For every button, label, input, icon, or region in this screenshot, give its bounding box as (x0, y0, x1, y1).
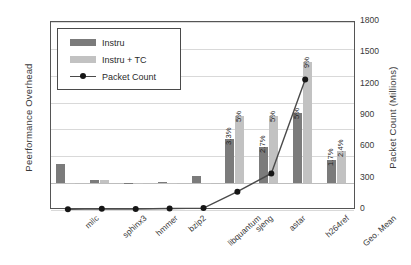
legend-item-packet-count[interactable]: Packet Count (64, 68, 174, 85)
bar-instru-tc (66, 183, 75, 184)
bar-value-label: 5% (234, 111, 243, 122)
y-axis-right-tick: 0 (360, 203, 400, 213)
bar-instru (124, 183, 133, 184)
x-axis-label-bzip2: bzip2 (186, 213, 208, 234)
legend-swatch-icon (70, 39, 96, 46)
bar-value-label: 9% (302, 57, 311, 68)
y-axis-right-tick: 1500 (360, 46, 400, 56)
bar-value-label: 5% (268, 111, 277, 122)
bar-instru (293, 113, 302, 183)
y-axis-left-title: Peerformance Overhead (23, 38, 34, 198)
bar-group: 2.7%5% (254, 22, 288, 208)
bar-value-label: 1.7% (326, 149, 335, 167)
bar-value-label: 3.3% (224, 127, 233, 145)
bar-group: 1.7%2.4% (322, 22, 356, 208)
y-axis-right-tick: 900 (360, 109, 400, 119)
chart-legend: InstruInstru + TCPacket Count (57, 28, 181, 90)
gridline (51, 210, 354, 211)
y-axis-right-tick: 1800 (360, 15, 400, 25)
bar-instru-tc (235, 116, 244, 183)
bar-group (187, 22, 221, 208)
legend-line-marker-icon (70, 73, 96, 80)
bar-instru-tc (269, 116, 278, 183)
x-axis-label-sphinx3: sphinx3 (120, 213, 148, 240)
bar-instru (225, 139, 234, 183)
legend-label: Packet Count (102, 72, 156, 82)
x-axis-label-geo-mean: Geo. Mean (361, 213, 398, 248)
bar-instru-tc (134, 183, 143, 184)
bar-instru (90, 180, 99, 183)
bar-instru-tc (100, 180, 109, 183)
legend-item-instru-tc[interactable]: Instru + TC (64, 51, 174, 68)
bar-instru (56, 164, 65, 183)
legend-label: Instru + TC (102, 55, 147, 65)
bar-instru (158, 182, 167, 183)
legend-label: Instru (102, 38, 125, 48)
x-axis-label-milc: milc (83, 213, 101, 230)
y-axis-right-tick: 1200 (360, 78, 400, 88)
bar-instru-tc (202, 183, 211, 184)
bar-instru-tc (168, 183, 177, 184)
bar-instru (192, 176, 201, 183)
x-axis-label-h264ref: h264ref (323, 213, 351, 239)
bar-instru-tc (303, 62, 312, 183)
bar-group: 5%9% (288, 22, 322, 208)
chart-container: Peerformance Overhead Packet Count (Mill… (0, 0, 411, 265)
bar-value-label: 5% (292, 108, 301, 119)
bar-value-label: 2.4% (336, 139, 345, 157)
x-axis-label-astar: astar (287, 213, 308, 233)
x-axis-label-hmmer: hmmer (153, 213, 179, 238)
bar-group: 3.3%5% (220, 22, 254, 208)
y-axis-right-tick: 600 (360, 140, 400, 150)
legend-swatch-icon (70, 56, 96, 63)
bar-value-label: 2.7% (258, 135, 267, 153)
legend-item-instru[interactable]: Instru (64, 34, 174, 51)
y-axis-right-tick: 300 (360, 172, 400, 182)
